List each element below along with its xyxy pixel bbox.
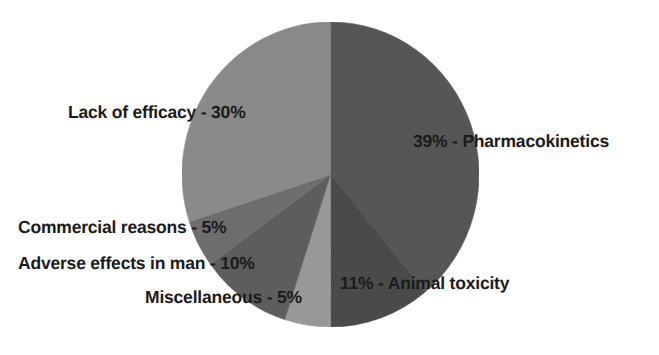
pie-label-lack-of-efficacy: Lack of efficacy - 30% (68, 104, 246, 122)
pie-label-animal-toxicity: 11% - Animal toxicity (340, 275, 509, 293)
pie-chart-canvas (0, 0, 659, 355)
pie-chart-figure: Lack of efficacy - 30% 39% - Pharmacokin… (0, 0, 659, 355)
pie-label-pharmacokinetics: 39% - Pharmacokinetics (413, 133, 609, 151)
pie-label-miscellaneous: Miscellaneous - 5% (145, 289, 302, 307)
pie-label-adverse-effects-in-man: Adverse effects in man - 10% (18, 255, 255, 273)
pie-label-commercial-reasons: Commercial reasons - 5% (18, 219, 226, 237)
